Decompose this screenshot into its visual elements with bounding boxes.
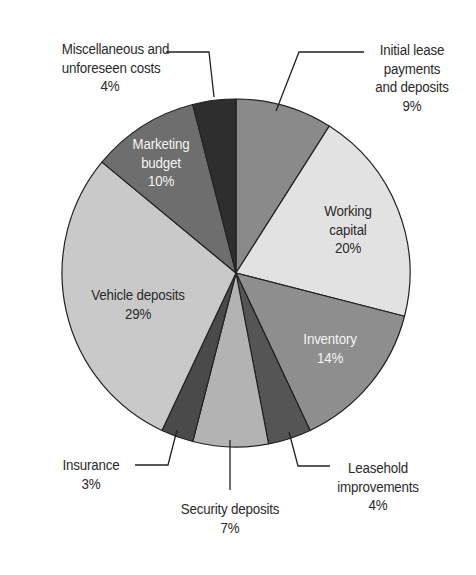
label-inventory-line1: Inventory: [287, 330, 373, 349]
label-inventory: Inventory 14%: [287, 330, 373, 367]
label-misc-pct: 4%: [62, 77, 158, 96]
label-working-capital: Working capital 20%: [314, 202, 383, 258]
leader-line-initial-lease: [276, 52, 364, 111]
label-vehicle: Vehicle deposits 29%: [78, 286, 198, 323]
label-working-capital-pct: 20%: [314, 239, 383, 258]
label-initial-lease-line3: and deposits: [371, 78, 454, 97]
label-insurance: Insurance 3%: [54, 456, 128, 493]
leader-line-misc: [166, 52, 214, 97]
label-initial-lease-line2: payments: [371, 60, 454, 79]
label-marketing: Marketing budget 10%: [126, 135, 197, 191]
label-misc: Miscellaneous and unforeseen costs 4%: [62, 40, 158, 96]
label-leasehold-line2: improvements: [328, 478, 428, 497]
leader-line-insurance: [135, 430, 177, 465]
label-insurance-pct: 3%: [54, 475, 128, 494]
label-working-capital-line1: Working: [314, 202, 383, 221]
label-initial-lease: Initial lease payments and deposits 9%: [371, 41, 454, 115]
label-security: Security deposits 7%: [172, 500, 289, 537]
label-marketing-pct: 10%: [126, 172, 197, 191]
label-leasehold: Leasehold improvements 4%: [328, 459, 428, 515]
label-leasehold-line1: Leasehold: [328, 459, 428, 478]
label-working-capital-line2: capital: [314, 221, 383, 240]
label-inventory-pct: 14%: [287, 349, 373, 368]
label-initial-lease-pct: 9%: [371, 97, 454, 116]
label-insurance-line1: Insurance: [54, 456, 128, 475]
label-security-pct: 7%: [172, 519, 289, 538]
label-marketing-line1: Marketing: [126, 135, 197, 154]
label-misc-line1: Miscellaneous and: [62, 40, 158, 59]
label-leasehold-pct: 4%: [328, 496, 428, 515]
pie-slices: [62, 99, 410, 447]
label-security-line1: Security deposits: [172, 500, 289, 519]
label-marketing-line2: budget: [126, 154, 197, 173]
label-vehicle-line1: Vehicle deposits: [78, 286, 198, 305]
label-initial-lease-line1: Initial lease: [371, 41, 454, 60]
label-misc-line2: unforeseen costs: [62, 59, 158, 78]
label-vehicle-pct: 29%: [78, 305, 198, 324]
